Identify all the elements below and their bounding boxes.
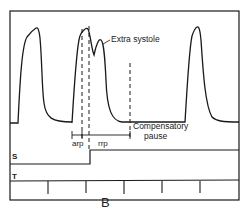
time-trace bbox=[10, 180, 239, 181]
compensatory-label-line1: Compensatory bbox=[133, 121, 189, 131]
channel-s-label: S bbox=[12, 152, 18, 161]
extra-systole-pointer bbox=[103, 40, 110, 44]
stimulus-trace bbox=[10, 150, 239, 164]
channel-t-label: T bbox=[12, 172, 17, 181]
extra-systole-label: Extra systole bbox=[111, 34, 160, 44]
rrp-label: rrp bbox=[98, 139, 108, 148]
panel-b-label: B bbox=[101, 195, 110, 210]
compensatory-label-line2: pause bbox=[144, 131, 167, 141]
arp-label: arp bbox=[72, 139, 84, 148]
cardiac-diagram: Extra systole Compensatory pause arp rrp… bbox=[0, 0, 245, 217]
